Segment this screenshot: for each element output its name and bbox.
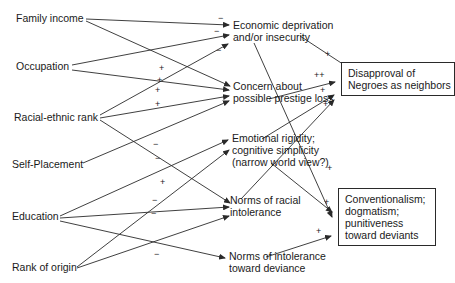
concern-line1: Concern about [233, 80, 333, 92]
node-emotional-rigidity: Emotional rigidity; cognitive simplicity… [232, 132, 329, 168]
disapproval-line1: Disapproval of [348, 67, 448, 79]
node-racial-ethnic-rank: Racial-ethnic rank [14, 111, 98, 123]
node-conventionalism: Conventionalism; dogmatism; punitiveness… [338, 188, 436, 246]
sign-education-norms-deviance: − [154, 250, 159, 259]
node-concern-prestige: Concern about possible prestige loss [233, 80, 333, 104]
norms-deviance-line1: Norms of intolerance [229, 250, 326, 262]
sign-origin-rigidity: − [155, 154, 160, 163]
sign-racial-norms: + [160, 178, 165, 187]
edge-occupation-econ [72, 35, 229, 65]
node-rank-of-origin: Rank of origin [12, 261, 77, 273]
sign-self-concern: + [155, 100, 160, 109]
sign-occupation-concern: + [157, 76, 162, 85]
edge-education-rigidity [60, 140, 228, 216]
econ-line1: Economic deprivation [233, 19, 333, 31]
edge-racial-norms [100, 120, 230, 203]
rigidity-line3: (narrow world view?) [232, 156, 329, 168]
disapproval-line2: Negroes as neighbors [348, 79, 448, 91]
rigidity-line1: Emotional rigidity; [232, 132, 329, 144]
concern-line2: possible prestige loss [233, 92, 333, 104]
node-norms-deviance: Norms of intolerance toward deviance [229, 250, 326, 274]
sign-norms-racial-disapproval: + [323, 100, 328, 109]
edge-racial-econ [100, 44, 228, 115]
conventionalism-line1: Conventionalism; [345, 193, 429, 205]
sign-rigidity-conventionalism: + [324, 198, 329, 207]
sign-econ-conventionalism: + [327, 164, 332, 173]
econ-line2: and/or insecurity [233, 31, 333, 43]
edge-racial-concern [100, 96, 229, 118]
sign-rigidity-disapproval: + [320, 86, 325, 95]
sign-education-rigidity: − [153, 140, 158, 149]
sign-origin-norms-racial: − [151, 209, 156, 218]
edge-education-norms-deviance [60, 221, 225, 258]
edge-education-norms-racial [60, 207, 229, 218]
node-disapproval: Disapproval of Negroes as neighbors [341, 62, 455, 96]
sign-education-norms-racial: − [152, 196, 157, 205]
rigidity-line2: cognitive simplicity [232, 144, 329, 156]
sign-occupation-econ: − [214, 27, 219, 36]
node-education: Education [12, 210, 59, 222]
node-economic-deprivation: Economic deprivation and/or insecurity [233, 19, 333, 43]
conventionalism-line4: toward deviants [345, 229, 429, 241]
norms-racial-line1: Norms of racial [230, 194, 301, 206]
conventionalism-line2: dogmatism; [345, 205, 429, 217]
conventionalism-line3: punitiveness [345, 217, 429, 229]
norms-racial-line2: intolerance [230, 206, 301, 218]
edge-family-econ [86, 19, 229, 25]
node-occupation: Occupation [16, 60, 69, 72]
sign-family-concern: + [159, 64, 164, 73]
node-norms-racial-intolerance: Norms of racial intolerance [230, 194, 301, 218]
sign-norms-deviance-conventionalism: + [316, 227, 321, 236]
node-family-income: Family income [16, 12, 84, 24]
edge-origin-norms-racial [77, 216, 229, 268]
sign-racial-econ: − [216, 46, 221, 55]
sign-racial-concern: + [155, 86, 160, 95]
node-self-placement: Self-Placement [12, 158, 83, 170]
sign-econ-disapproval: + [325, 50, 330, 59]
sign-family-econ: − [218, 14, 223, 23]
norms-deviance-line2: toward deviance [229, 262, 326, 274]
sign-concern-disapproval: ++ [314, 71, 325, 80]
